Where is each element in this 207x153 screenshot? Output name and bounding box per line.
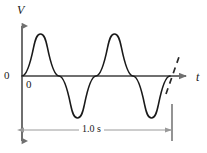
axis-break-dashed-mark xyxy=(166,54,180,94)
horizontal-axis-label: t xyxy=(196,71,199,83)
voltage-time-graph-figure: V t 0 0 1.0 s xyxy=(0,0,207,153)
origin-zero-label: 0 xyxy=(26,79,32,90)
vertical-axis-label: V xyxy=(17,4,24,16)
y-axis-zero-label: 0 xyxy=(4,70,10,81)
duration-dimension-label: 1.0 s xyxy=(79,124,104,134)
